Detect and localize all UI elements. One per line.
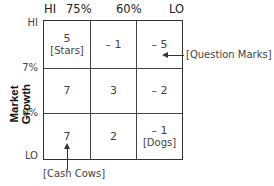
cell-value: 7 bbox=[64, 131, 71, 143]
arrow-up-icon bbox=[64, 143, 70, 149]
cell-value: – 5 bbox=[152, 39, 168, 51]
x-label-lo: LO bbox=[169, 2, 184, 16]
cell-stars: 5 [Stars] bbox=[44, 21, 91, 69]
question-marks-label: [Question Marks] bbox=[186, 49, 272, 60]
cell-r1c2: – 2 bbox=[137, 69, 182, 114]
cell-value: – 1 bbox=[106, 39, 122, 51]
x-label-75: 75% bbox=[66, 2, 92, 16]
cell-question-marks: – 5 bbox=[137, 21, 182, 69]
x-label-hi: HI bbox=[44, 2, 56, 16]
cell-value: – 1 bbox=[152, 125, 168, 137]
stars-tag: [Stars] bbox=[50, 45, 84, 57]
cash-cows-label: [Cash Cows] bbox=[43, 168, 105, 179]
cell-r1c0: 7 bbox=[44, 69, 91, 114]
y-axis-title: Market Growth bbox=[8, 64, 32, 144]
dogs-tag: [Dogs] bbox=[143, 137, 176, 149]
cell-dogs: – 1 [Dogs] bbox=[137, 114, 182, 159]
bcg-matrix: 5 [Stars] – 1 – 5 7 3 – 2 7 2 – 1 [Dogs] bbox=[43, 20, 183, 160]
y-label-hi: HI bbox=[14, 17, 38, 28]
cell-value: 2 bbox=[110, 131, 117, 143]
cell-r1c1: 3 bbox=[91, 69, 137, 114]
cell-r0c1: – 1 bbox=[91, 21, 137, 69]
cell-value: 5 bbox=[64, 33, 71, 45]
question-marks-arrow-line bbox=[166, 55, 184, 56]
cash-cows-arrow-line bbox=[67, 146, 68, 170]
arrow-left-icon bbox=[162, 52, 168, 58]
x-label-60: 60% bbox=[116, 2, 142, 16]
cell-value: 3 bbox=[110, 85, 117, 97]
cell-r2c1: 2 bbox=[91, 114, 137, 159]
y-label-lo: LO bbox=[14, 150, 38, 161]
cell-value: 7 bbox=[64, 85, 71, 97]
cell-value: – 2 bbox=[152, 85, 168, 97]
